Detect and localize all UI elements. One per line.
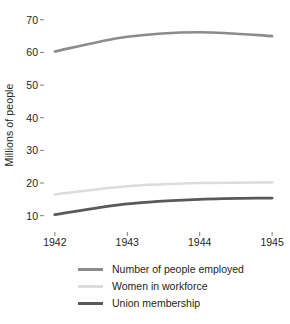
legend-item[interactable]: Union membership xyxy=(78,295,200,311)
x-axis-tick-label: 1942 xyxy=(35,236,75,248)
legend-line-swatch-icon xyxy=(78,302,103,305)
y-axis-tick-label: 20 xyxy=(14,178,38,188)
data-line-series-2 xyxy=(55,182,272,194)
y-axis-tick-label: 40 xyxy=(14,113,38,123)
legend-line-swatch-icon xyxy=(78,268,103,271)
legend-item-label: Women in workforce xyxy=(112,280,208,292)
y-axis-tick-labels: 10203040506070 xyxy=(14,0,38,258)
data-line-series-3 xyxy=(55,198,272,215)
y-axis-tick-label: 60 xyxy=(14,47,38,57)
legend-item-label: Union membership xyxy=(112,297,200,309)
x-axis-tick-label: 1945 xyxy=(252,236,290,248)
y-axis-tick-label: 10 xyxy=(14,211,38,221)
plot-region xyxy=(0,0,290,258)
plot-svg xyxy=(0,0,290,258)
line-chart-figure: Millions of people 10203040506070 194219… xyxy=(0,0,290,324)
legend-line-swatch-icon xyxy=(78,285,103,288)
y-axis-tick-label: 70 xyxy=(14,15,38,25)
x-axis-tick-label: 1944 xyxy=(180,236,220,248)
legend-item[interactable]: Number of people employed xyxy=(78,261,244,277)
y-axis-tick-label: 30 xyxy=(14,145,38,155)
x-axis-tick-labels: 1942194319441945 xyxy=(0,236,290,252)
x-axis-tick-label: 1943 xyxy=(107,236,147,248)
legend-item-label: Number of people employed xyxy=(112,263,244,275)
legend-item[interactable]: Women in workforce xyxy=(78,278,208,294)
y-axis-tick-label: 50 xyxy=(14,80,38,90)
data-line-series-1 xyxy=(55,32,272,51)
chart-legend: Number of people employedWomen in workfo… xyxy=(0,261,290,321)
